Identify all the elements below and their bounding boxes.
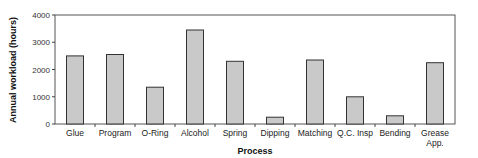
x-tick-label: Matching (298, 128, 333, 138)
x-tick-label: GreaseApp. (421, 128, 449, 148)
x-tick-label: Glue (66, 128, 84, 138)
y-tick-label: 3000 (32, 38, 50, 47)
bars: Glue: 2500Program: 2550O-Ring: 1350Alcoh… (67, 30, 444, 124)
x-tick-label-line: Grease (421, 128, 449, 138)
bar-matching: Matching: 2350 (307, 60, 324, 124)
x-tick-label: Program (99, 128, 132, 138)
x-tick-label-line: O-Ring (142, 128, 169, 138)
y-axis: 01000200030004000 (32, 11, 55, 129)
x-tick-label-line: Spring (223, 128, 248, 138)
bar-grease-app: Grease App.: 2250 (427, 63, 444, 124)
y-tick-label: 1000 (32, 93, 50, 102)
x-tick-label: Alcohol (181, 128, 209, 138)
x-tick-label: Q.C. Insp (337, 128, 373, 138)
y-tick-label: 4000 (32, 11, 50, 20)
bar-spring: Spring: 2300 (227, 61, 244, 124)
x-tick-label-line: Dipping (261, 128, 290, 138)
bar-glue: Glue: 2500 (67, 56, 84, 124)
x-tick-label: Spring (223, 128, 248, 138)
bar-bending: Bending: 300 (387, 116, 404, 124)
bar-chart: 01000200030004000 GlueProgramO-RingAlcoh… (0, 0, 478, 158)
bar-q-c-insp: Q.C. Insp: 1000 (347, 97, 364, 124)
x-tick-label: Bending (379, 128, 410, 138)
x-tick-label-line: Alcohol (181, 128, 209, 138)
y-axis-title: Annual workload (hours) (8, 17, 18, 123)
bar-dipping: Dipping: 250 (267, 117, 284, 124)
bar-program: Program: 2550 (107, 55, 124, 125)
y-tick-label: 2000 (32, 66, 50, 75)
x-tick-label-line: Matching (298, 128, 333, 138)
x-tick-label: O-Ring (142, 128, 169, 138)
x-tick-label: Dipping (261, 128, 290, 138)
x-axis: GlueProgramO-RingAlcoholSpringDippingMat… (66, 124, 449, 148)
bar-o-ring: O-Ring: 1350 (147, 87, 164, 124)
x-axis-title: Process (237, 146, 272, 156)
bar-alcohol: Alcohol: 3450 (187, 30, 204, 124)
y-tick-label: 0 (46, 120, 51, 129)
x-tick-label-line: Glue (66, 128, 84, 138)
x-tick-label-line: Program (99, 128, 132, 138)
x-tick-label-line: Bending (379, 128, 410, 138)
x-tick-label-line: App. (426, 138, 444, 148)
x-tick-label-line: Q.C. Insp (337, 128, 373, 138)
